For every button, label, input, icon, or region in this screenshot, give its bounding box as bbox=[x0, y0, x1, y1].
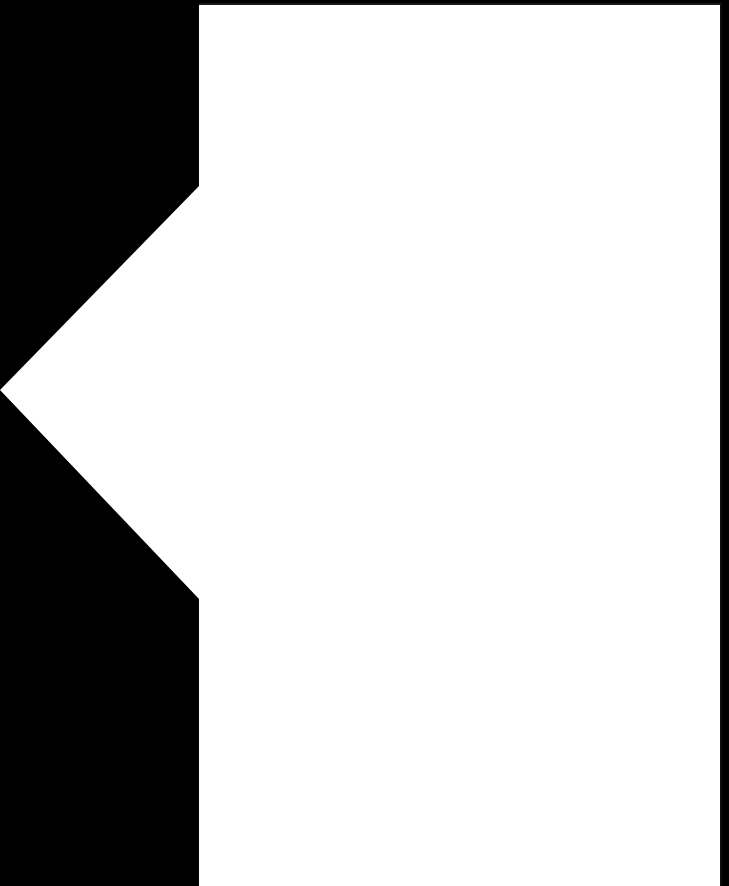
content-panel-body bbox=[199, 5, 720, 886]
screen-root bbox=[0, 0, 729, 886]
chevron-left-icon bbox=[0, 185, 200, 600]
panel-left-seam bbox=[199, 0, 200, 886]
collapse-chevron-handle[interactable] bbox=[0, 185, 200, 600]
content-panel[interactable] bbox=[199, 3, 722, 886]
